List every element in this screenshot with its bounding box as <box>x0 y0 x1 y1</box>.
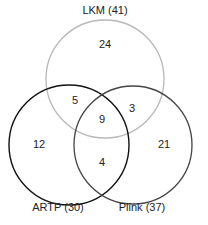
region-plink-only: 21 <box>158 138 170 150</box>
region-lkm-artp: 5 <box>72 94 78 106</box>
region-lkm-only: 24 <box>99 38 111 50</box>
region-lkm-plink: 3 <box>129 102 135 114</box>
venn-diagram: LKM (41) ARTP (30) Plink (37) 24 5 3 9 1… <box>0 0 208 225</box>
lkm-label: LKM (41) <box>82 4 127 16</box>
region-all-three: 9 <box>99 113 105 125</box>
region-artp-plink: 4 <box>99 156 105 168</box>
artp-circle <box>9 85 129 205</box>
plink-label: Plink (37) <box>119 201 165 213</box>
artp-label: ARTP (30) <box>32 201 84 213</box>
region-artp-only: 12 <box>33 138 45 150</box>
